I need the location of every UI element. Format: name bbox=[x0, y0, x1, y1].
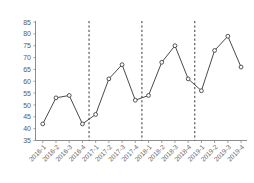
data-point bbox=[54, 96, 58, 100]
data-point bbox=[147, 94, 151, 98]
y-tick-label: 60 bbox=[23, 78, 31, 85]
data-point bbox=[173, 44, 177, 48]
y-tick-label: 75 bbox=[23, 42, 31, 49]
data-point bbox=[67, 94, 71, 98]
y-axis-tick-labels: 3540455055606570758085 bbox=[23, 19, 31, 145]
y-tick-label: 45 bbox=[23, 113, 31, 120]
chart-canvas: 3540455055606570758085 2016-12016-22016-… bbox=[0, 0, 254, 183]
data-point bbox=[200, 89, 204, 93]
x-axis-tick-labels: 2016-12016-22016-32016-42017-12017-22017… bbox=[27, 143, 245, 163]
data-point bbox=[226, 34, 230, 38]
data-point bbox=[186, 77, 190, 81]
data-point bbox=[133, 98, 137, 102]
data-point bbox=[81, 122, 85, 126]
data-point bbox=[107, 77, 111, 81]
data-point bbox=[41, 122, 45, 126]
data-point bbox=[213, 49, 217, 53]
line-chart: 3540455055606570758085 2016-12016-22016-… bbox=[0, 0, 254, 183]
y-tick-label: 55 bbox=[23, 90, 31, 97]
y-tick-label: 65 bbox=[23, 66, 31, 73]
data-point bbox=[120, 63, 124, 67]
data-point bbox=[239, 65, 243, 69]
y-tick-label: 35 bbox=[23, 137, 31, 144]
data-point bbox=[160, 60, 164, 64]
data-point bbox=[94, 113, 98, 117]
year-separator-lines bbox=[89, 21, 195, 141]
y-tick-label: 50 bbox=[23, 102, 31, 109]
y-tick-label: 85 bbox=[23, 19, 31, 26]
y-tick-label: 40 bbox=[23, 125, 31, 132]
y-tick-label: 80 bbox=[23, 30, 31, 37]
y-tick-label: 70 bbox=[23, 54, 31, 61]
